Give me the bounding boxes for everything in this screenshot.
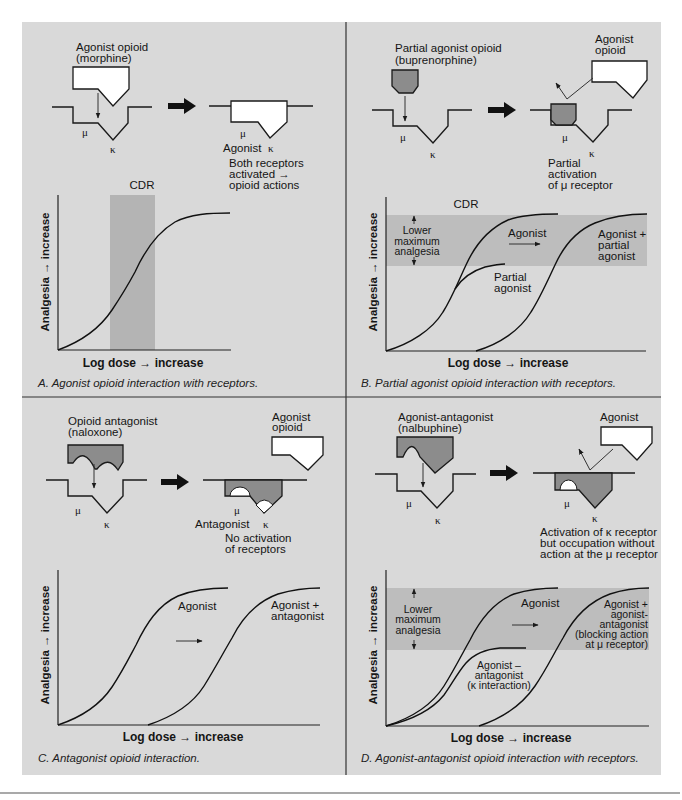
cdr-label: CDR [454,198,479,210]
mu-label: μ [82,126,88,138]
panel-caption: C. Antagonist opioid interaction. [38,752,200,764]
cdr-label: CDR [130,179,155,191]
y-axis-label: Analgesia → increase [39,213,51,332]
agonist-curve-label: Agonist [178,600,217,612]
panel-b-drug-label: Partial agonist opioid [395,42,502,54]
result-text-line: of receptors [225,543,286,555]
kappa-label: κ [263,518,269,530]
kappa-label: κ [104,518,110,530]
combined-curve-label: at μ receptor) [585,638,648,650]
agonist-curve-label: Agonist [508,227,547,239]
y-axis-label: Analgesia → increase [367,586,379,705]
x-axis-label: Log dose → increase [448,356,569,370]
kappa-label: κ [589,147,595,159]
lower-max-label: analgesia [395,245,440,257]
kappa-label: κ [110,143,116,155]
y-axis-label: Analgesia → increase [39,586,51,705]
result-text-line: of μ receptor [548,179,613,191]
combined-curve-label: antagonist [271,610,325,622]
mu-label: μ [234,504,240,516]
antagonist-label: Antagonist [195,518,250,530]
panel-caption: B. Partial agonist opioid interaction wi… [361,377,616,389]
x-axis-label: Log dose → increase [451,731,572,745]
result-text-line: action at the μ receptor [540,548,658,560]
panel-caption: D. Agonist-antagonist opioid interaction… [361,752,639,764]
partial-curve-label: agonist [494,282,532,294]
mu-label: μ [562,131,568,143]
agonist-label: opioid [595,44,626,56]
result-text-line: opioid actions [229,179,300,191]
mu-label: μ [75,504,81,516]
panel-a-drug-name: (morphine) [76,52,132,64]
kappa-label: κ [268,142,274,154]
kappa-label: κ [430,148,436,160]
opioid-interaction-figure: Agonist opioid (morphine) μ κ μ Agonist … [0,0,682,800]
partial-agonist-shape [392,70,418,93]
mu-label: μ [406,497,412,509]
panel-c-drug-name: (naloxone) [68,426,123,438]
panel-b-drug-name: (buprenorphine) [395,54,477,66]
agonist-label: Agonist [223,142,262,154]
x-axis-label: Log dose → increase [123,730,244,744]
agonist-curve-label: Agonist [521,597,560,609]
mu-label: μ [240,127,246,139]
kappa-label: κ [592,512,598,524]
panel-caption: A. Agonist opioid interaction with recep… [37,377,258,389]
mu-label: μ [400,131,406,143]
x-axis-label: Log dose → increase [83,356,204,370]
agonist-label: Agonist [600,411,639,423]
combined-curve-label: agonist [598,250,636,262]
bound-partial-agonist-shape [551,104,576,125]
mixed-curve-label: (κ interaction) [467,679,531,691]
panel-d-drug-name: (nalbuphine) [398,422,462,434]
cdr-band [110,195,155,350]
agonist-label: opioid [272,421,303,433]
lower-max-label: analgesia [396,624,441,636]
mu-label: μ [564,497,570,509]
kappa-label: κ [435,514,441,526]
y-axis-label: Analgesia → increase [367,213,379,332]
